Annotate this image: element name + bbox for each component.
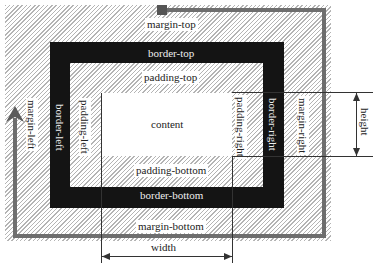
margin-path-top [160,8,326,12]
path-start-marker-icon [157,5,167,15]
border-top-label: border-top [146,47,196,60]
height-label: height [359,106,371,138]
margin-right-label: margin-right [297,96,309,155]
width-dimension-line [102,256,232,257]
padding-left-label: padding-left [79,98,91,156]
margin-path-left [13,118,17,238]
margin-left-label: margin-left [26,98,38,151]
margin-path-bottom [13,234,326,238]
border-left-label: border-left [54,102,66,153]
width-guide-right [232,156,233,263]
arrow-right-icon [224,253,232,260]
arrow-left-icon [102,253,110,260]
height-guide-bottom [232,156,373,157]
padding-right-label: padding-right [235,95,247,159]
border-bottom-label: border-bottom [138,189,205,202]
padding-bottom-label: padding-bottom [134,164,208,177]
margin-bottom-label: margin-bottom [136,220,206,233]
width-label: width [151,241,176,253]
arrow-up-icon [6,106,24,122]
arrow-down-icon [353,148,360,156]
height-dimension-line [356,93,357,156]
height-guide-top [232,92,373,93]
margin-path-right [322,8,326,238]
margin-top-label: margin-top [145,18,198,31]
content-label: content [151,118,183,130]
arrow-up-icon [353,93,360,101]
width-guide-left [101,93,102,263]
border-right-label: border-right [267,96,279,153]
padding-top-label: padding-top [142,71,199,84]
